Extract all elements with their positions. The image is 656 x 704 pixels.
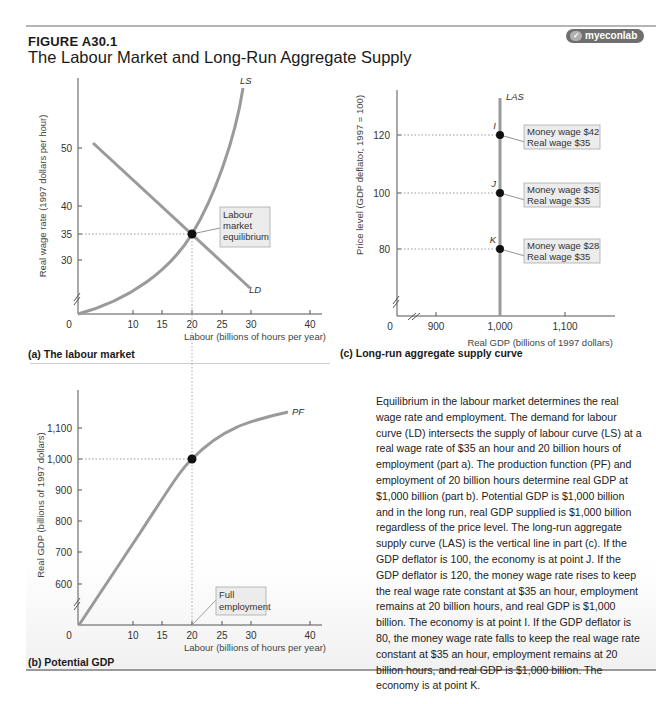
xtick-b: 20	[186, 630, 198, 641]
annotation-line: Labour	[223, 209, 253, 220]
panel-b-caption: (b) Potential GDP	[28, 656, 114, 668]
axis-label-y-a: Real wage rate (1997 dollars per hour)	[37, 115, 48, 278]
point-label-k: K	[490, 234, 497, 245]
ytick-b: 900	[55, 485, 72, 496]
xtick-b: 10	[127, 630, 139, 641]
potential-gdp-point	[188, 455, 197, 464]
annotation-line: Full	[219, 589, 234, 600]
ytick-b: 600	[55, 579, 72, 590]
xtick-c: 1,100	[552, 321, 577, 332]
axis-label-x-b: Labour (billions of hours per year)	[184, 642, 326, 653]
xtick-b: 30	[245, 630, 257, 641]
ytick-a: 30	[61, 255, 73, 266]
ytick-a: 40	[61, 201, 73, 212]
ytick-a: 35	[61, 229, 73, 240]
equilibrium-point	[188, 230, 197, 239]
point-j	[496, 189, 504, 197]
ld-label: LD	[249, 284, 261, 295]
figure-description: Equilibrium in the labour market determi…	[376, 394, 644, 694]
point-i	[496, 131, 504, 139]
money-wage-j: Money wage $35	[527, 184, 599, 195]
xtick-b: 25	[216, 630, 228, 641]
ytick-c: 80	[379, 244, 391, 255]
ytick-b: 1,100	[47, 423, 72, 434]
ytick-b: 800	[55, 516, 72, 527]
axis-break-icon	[74, 293, 80, 305]
xtick-a: 40	[304, 319, 316, 330]
real-wage-j: Real wage $35	[527, 195, 590, 206]
xtick-a: 25	[216, 319, 228, 330]
las-label: LAS	[506, 91, 525, 102]
xtick-a: 0	[66, 319, 72, 330]
axis-label-y-c: Price level (GDP deflator, 1997 = 100)	[354, 95, 365, 255]
axis-label-y-b: Real GDP (billions of 1997 dollars)	[35, 432, 46, 578]
xtick-c: 0	[387, 321, 393, 332]
ytick-b: 700	[55, 547, 72, 558]
axis-label-x-a: Labour (billions of hours per year)	[184, 331, 326, 342]
ls-curve	[78, 88, 243, 314]
pf-label: PF	[292, 406, 305, 417]
point-label-i: I	[493, 120, 496, 131]
money-wage-k: Money wage $28	[527, 240, 599, 251]
money-wage-i: Money wage $42	[527, 126, 599, 137]
panel-c-caption: (c) Long-run aggregate supply curve	[340, 347, 523, 359]
xtick-c: 1,000	[487, 321, 512, 332]
real-wage-i: Real wage $35	[527, 137, 590, 148]
xtick-a: 20	[186, 319, 198, 330]
ytick-c: 100	[373, 188, 390, 199]
xtick-a: 15	[156, 319, 168, 330]
panel-a-caption: (a) The labour market	[28, 348, 135, 360]
xtick-c: 900	[428, 321, 445, 332]
ytick-b: 1,000	[47, 454, 72, 465]
xtick-a: 10	[127, 319, 139, 330]
annotation-line: equilibrium	[223, 231, 269, 242]
annotation-line: market	[223, 220, 252, 231]
annotation-line: employment	[219, 601, 271, 612]
real-wage-k: Real wage $35	[527, 251, 590, 262]
point-label-j: J	[490, 178, 496, 189]
xtick-b: 0	[66, 630, 72, 641]
ytick-a: 50	[61, 143, 73, 154]
ytick-c: 120	[373, 130, 390, 141]
axis-break-icon	[74, 598, 80, 610]
xtick-b: 40	[304, 630, 316, 641]
xtick-b: 15	[156, 630, 168, 641]
xtick-a: 30	[245, 319, 257, 330]
ls-label: LS	[240, 75, 252, 86]
point-k	[496, 245, 504, 253]
